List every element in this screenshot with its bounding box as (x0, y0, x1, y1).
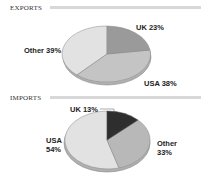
imports-label-uk: UK 13% (70, 105, 98, 114)
exports-pie: UK 23% USA 38% Other 39% (24, 23, 177, 88)
exports-label-other: Other 39% (24, 46, 61, 55)
imports-label-other-name: Other (157, 139, 177, 148)
exports-label-uk: UK 23% (136, 23, 164, 32)
pie-charts: UK 23% USA 38% Other 39% UK 13% USA 54% … (0, 0, 206, 186)
imports-label-usa-name: USA (46, 136, 62, 145)
exports-label-usa: USA 38% (144, 79, 177, 88)
imports-label-other-value: 33% (157, 148, 172, 157)
imports-pie: UK 13% USA 54% Other 33% (46, 105, 177, 172)
imports-label-usa-value: 54% (46, 145, 61, 154)
